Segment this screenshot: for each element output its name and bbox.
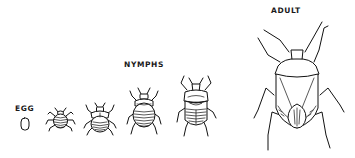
egg-illustration [21,118,29,130]
nymph-1-illustration [46,108,75,131]
nymph-3-illustration [127,88,161,134]
life-cycle-illustration [0,0,355,158]
nymph-4-illustration [177,76,216,136]
adult-illustration [254,22,344,150]
nymph-2-illustration [84,103,116,135]
